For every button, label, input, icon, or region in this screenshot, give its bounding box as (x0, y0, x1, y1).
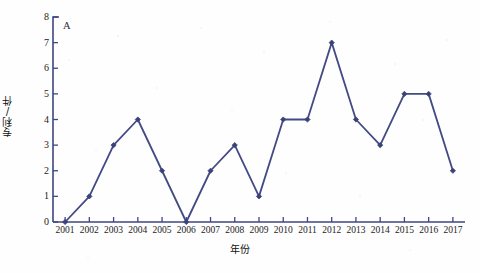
data-point-marker (305, 117, 310, 122)
data-point-marker (450, 168, 455, 173)
data-series-group (63, 40, 456, 225)
data-point-marker (426, 91, 431, 96)
chart-figure: A 专利/件 年份 012345678 20012002200320042005… (0, 0, 480, 273)
chart-canvas (0, 0, 480, 273)
data-point-marker (329, 40, 334, 45)
data-point-marker (281, 117, 286, 122)
axes-group (53, 17, 465, 222)
